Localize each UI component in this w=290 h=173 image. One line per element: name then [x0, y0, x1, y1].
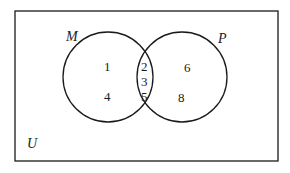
set-m-circle — [63, 32, 153, 122]
m-only-element: 1 — [104, 59, 111, 74]
p-only-element: 6 — [184, 60, 191, 75]
intersection-element: 2 — [141, 59, 148, 74]
p-only-element: 8 — [178, 90, 185, 105]
set-m-label: M — [65, 29, 79, 44]
m-only-element: 4 — [104, 89, 111, 104]
venn-diagram: M P U 1 4 2 3 5 6 8 — [0, 0, 290, 173]
universe-label: U — [27, 136, 38, 151]
set-p-circle — [137, 32, 227, 122]
set-p-label: P — [217, 31, 227, 46]
intersection-element: 3 — [141, 74, 148, 89]
intersection-element: 5 — [141, 89, 148, 104]
